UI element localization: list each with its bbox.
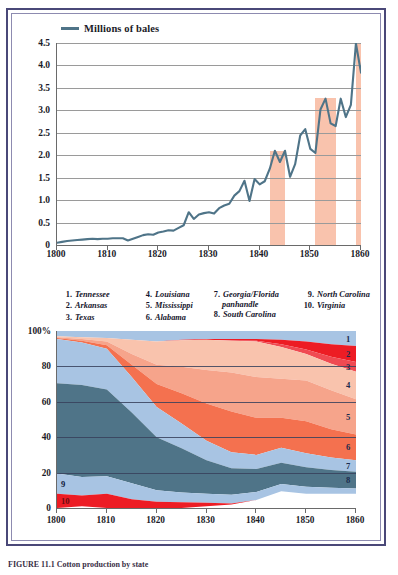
state-key-number: 1. [63,289,72,300]
x-tick [206,509,207,513]
state-key-number: 5. [143,300,152,311]
x-tick-label: 1820 [148,249,167,259]
state-key-number: 9. [301,289,314,300]
x-tick-label: 1830 [196,515,215,525]
gridline [57,402,356,403]
area-chart-y-axis-labels: 100%806040200 [15,327,54,513]
y-tick-label: 4.0 [38,60,50,70]
area-series-number-7: 7 [346,461,350,471]
state-key-number: 3. [63,312,72,323]
area-series-number-5: 5 [346,412,350,422]
x-tick [255,509,256,513]
y-tick-label: 3.0 [38,105,50,115]
x-tick-label: 1830 [199,249,218,259]
area-series-number-10: 10 [61,496,70,506]
state-key-column: 4.Louisiana5.Mississippi6.Alabama [143,289,193,323]
x-tick [156,509,157,513]
area-series-number-2: 2 [346,349,350,359]
area-series-number-3: 3 [346,362,350,372]
state-key-entry: 8.South Carolina [211,309,279,320]
state-key-name: Mississippi [155,300,193,311]
state-key-name: Louisiana [155,289,190,300]
area-chart-plot-area [56,331,356,509]
y-tick-label: 20 [42,468,51,478]
gridline [57,473,356,474]
x-tick-label: 1850 [300,249,319,259]
x-tick [355,509,356,513]
figure-caption: FIGURE 11.1 Cotton production by state [8,560,388,574]
state-key-entry: 9.North Carolina [301,289,370,300]
area-chart: 100%806040200 12345678910 18001810182018… [15,327,379,539]
area-series-number-8: 8 [346,475,350,485]
x-tick-label: 1800 [47,249,66,259]
state-key-name: Arkansas [75,300,107,311]
x-tick-label: 1840 [249,249,268,259]
y-tick-label: 1.5 [38,173,50,183]
y-tick-label: 60 [42,397,51,407]
state-key-number: 8. [211,309,220,320]
area-series-number-1: 1 [346,334,350,344]
y-tick-label: 80 [42,361,51,371]
line-chart-y-axis-labels: 4.54.03.53.02.52.01.51.00.50 [15,37,53,252]
x-tick-label: 1800 [47,515,66,525]
state-key-column: 9.North Carolina10.Virginia [301,289,370,312]
state-key-entry: 4.Louisiana [143,289,193,300]
state-key-legend: 1.Tennessee2.Arkansas3.Texas4.Louisiana5… [15,289,379,325]
figure-border: Millions of bales 4.54.03.53.02.52.01.51… [6,8,386,546]
x-tick-label: 1860 [351,249,370,259]
gridline [57,437,356,438]
y-tick-label: 2.0 [38,150,50,160]
x-tick [56,509,57,513]
area-series-number-4: 4 [346,380,350,390]
state-key-number: 2. [63,300,72,311]
state-key-name: Alabama [155,312,186,323]
state-key-column: 7.Georgia/Floridapanhandle8.South Caroli… [211,289,279,321]
line-series-cotton-production [57,43,361,245]
figure-panel: Millions of bales 4.54.03.53.02.52.01.51… [15,17,379,539]
state-key-column: 1.Tennessee2.Arkansas3.Texas [63,289,110,323]
line-chart: Millions of bales 4.54.03.53.02.52.01.51… [15,17,379,285]
state-key-number: 7. [211,289,220,300]
state-key-entry: 1.Tennessee [63,289,110,300]
x-tick-label: 1810 [97,515,116,525]
state-key-number: 6. [143,312,152,323]
legend-label: Millions of bales [84,23,159,34]
state-key-name: Texas [75,312,95,323]
state-key-name: South Carolina [223,309,276,320]
area-chart-x-ticks [56,509,356,514]
state-key-name-continuation: panhandle [211,300,279,309]
state-key-entry: 5.Mississippi [143,300,193,311]
area-series-number-6: 6 [346,442,350,452]
state-key-entry: 3.Texas [63,312,110,323]
y-tick-label: 4.5 [38,38,50,48]
x-tick-label: 1810 [97,249,116,259]
state-key-name: North Carolina [317,289,370,300]
x-tick-label: 1840 [246,515,265,525]
state-key-entry: 7.Georgia/Florida [211,289,279,300]
line-chart-plot-area [56,43,361,246]
x-tick [106,509,107,513]
area-series-group [57,331,356,508]
state-key-entry: 10.Virginia [301,300,370,311]
state-key-name: Virginia [317,300,345,311]
state-key-number: 10. [301,300,314,311]
y-tick-label: 2.5 [38,128,50,138]
x-tick-label: 1820 [146,515,165,525]
y-tick-label: 3.5 [38,83,50,93]
state-key-name: Tennessee [75,289,110,300]
y-tick-label: 0 [46,503,51,513]
legend-line-swatch [61,27,79,30]
line-chart-legend: Millions of bales [61,23,159,34]
gridline [57,366,356,367]
state-key-entry: 2.Arkansas [63,300,110,311]
y-tick-label: 100% [28,326,51,336]
area-series-number-9: 9 [61,479,65,489]
x-tick-label: 1850 [296,515,315,525]
state-key-entry: 6.Alabama [143,312,193,323]
y-tick-label: 0.5 [38,218,50,228]
state-key-name: Georgia/Florida [223,289,279,300]
state-key-number: 4. [143,289,152,300]
y-tick-label: 40 [42,432,51,442]
x-tick-label: 1860 [346,515,365,525]
x-tick [305,509,306,513]
